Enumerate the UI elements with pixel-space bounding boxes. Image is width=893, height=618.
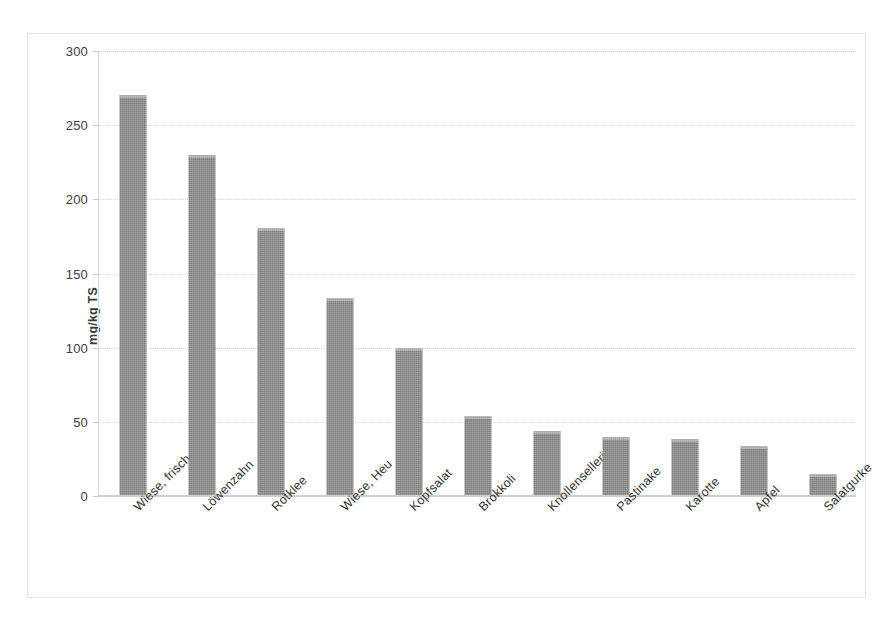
bar-slot: Karotte	[650, 51, 719, 495]
bar-slot: Kopfsalat	[375, 51, 444, 495]
bar[interactable]	[189, 155, 216, 495]
bars-group: Wiese, frischLöwenzahnRotkleeWiese, HeuK…	[99, 51, 856, 495]
bar-slot: Pastinake	[581, 51, 650, 495]
tick-mark-0	[93, 496, 99, 497]
bar[interactable]	[464, 416, 491, 495]
bar-slot: Salatgurke	[788, 51, 857, 495]
bar[interactable]	[740, 446, 767, 495]
bar-slot: Apfel	[719, 51, 788, 495]
bar[interactable]	[396, 348, 423, 495]
bar[interactable]	[327, 298, 354, 495]
bar-slot: Wiese, Heu	[306, 51, 375, 495]
bar[interactable]	[533, 431, 560, 495]
y-tick-label: 200	[66, 192, 88, 207]
bar-slot: Löwenzahn	[168, 51, 237, 495]
bar[interactable]	[120, 95, 147, 496]
chart-frame: mg/kg TS 300250200150100500 Wiese, frisc…	[27, 33, 866, 598]
y-tick-label: 100	[66, 340, 88, 355]
y-tick-label: 0	[81, 489, 88, 504]
bar[interactable]	[671, 439, 698, 495]
bar[interactable]	[602, 437, 629, 495]
plot-area: 300250200150100500 Wiese, frischLöwenzah…	[98, 51, 856, 496]
bar-slot: Knollensellerie	[512, 51, 581, 495]
y-tick-label: 300	[66, 44, 88, 59]
bar[interactable]	[258, 228, 285, 495]
bar-slot: Brokkoli	[444, 51, 513, 495]
y-tick-label: 50	[73, 414, 88, 429]
y-tick-label: 150	[66, 266, 88, 281]
bar-slot: Rotklee	[237, 51, 306, 495]
bar-slot: Wiese, frisch	[99, 51, 168, 495]
y-tick-label: 250	[66, 118, 88, 133]
